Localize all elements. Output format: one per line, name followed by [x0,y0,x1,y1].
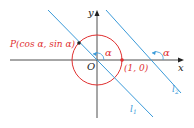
alpha-origin-label: α [105,47,112,58]
origin-label: O [87,61,95,72]
y-axis-label: y [87,7,94,18]
point-p [77,41,81,45]
line-l1-label: l1 [130,104,137,115]
alpha-l2-label: α [163,47,170,58]
point-unit [120,58,124,62]
unit-circle-diagram: y x O P(cos α, sin α) (1, 0) α α l1 l2 [0,0,194,128]
point-p-label: P(cos α, sin α) [9,39,76,49]
line-l2-label: l2 [172,84,179,95]
point-unit-label: (1, 0) [124,63,149,73]
y-axis-arrow-icon [95,10,100,16]
diagram-canvas: y x O P(cos α, sin α) (1, 0) α α l1 l2 [0,0,194,128]
x-axis-label: x [178,62,184,73]
